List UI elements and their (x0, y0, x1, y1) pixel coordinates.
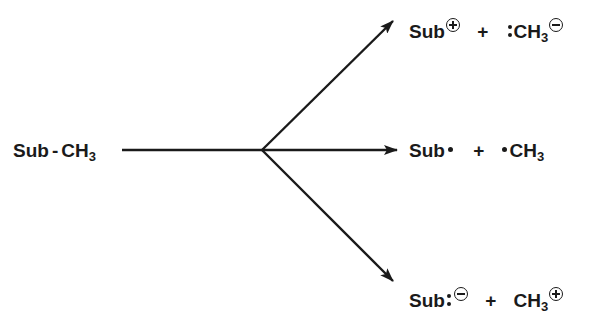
reactant-sub: Sub (13, 140, 49, 161)
upper-subscript: 3 (541, 30, 548, 45)
lone-pair-icon (446, 293, 452, 307)
reactant-ch: CH (61, 140, 88, 161)
lone-pair-icon (507, 24, 513, 38)
reactant-bond: - (52, 140, 58, 161)
upper-ch: CH (514, 21, 541, 42)
plus-sign: + (485, 291, 496, 311)
radical-dot-icon (448, 147, 453, 152)
lower-arrow (262, 150, 393, 281)
lower-sub: Sub (409, 290, 445, 311)
middle-subscript: 3 (537, 149, 544, 164)
minus-charge-icon (454, 287, 468, 301)
upper-sub: Sub (409, 21, 445, 42)
upper-arrow (262, 21, 393, 150)
minus-charge-icon (549, 18, 563, 32)
plus-sign: + (473, 141, 484, 161)
radical-dot-icon (502, 147, 507, 152)
product-upper: Sub + CH3 (409, 18, 563, 42)
reactant-subscript: 3 (89, 149, 96, 164)
lower-ch: CH (514, 290, 541, 311)
lower-subscript: 3 (541, 299, 548, 314)
product-middle: Sub + CH3 (409, 141, 544, 161)
plus-charge-icon (549, 287, 563, 301)
reactant-label: Sub-CH3 (13, 141, 96, 161)
bond-cleavage-scheme: Sub-CH3 Sub + CH3 Sub + CH3 Sub + CH3 (0, 0, 591, 323)
middle-ch: CH (510, 140, 537, 161)
product-lower: Sub + CH3 (409, 287, 563, 311)
plus-sign: + (477, 22, 488, 42)
plus-charge-icon (446, 18, 460, 32)
middle-sub: Sub (409, 140, 445, 161)
